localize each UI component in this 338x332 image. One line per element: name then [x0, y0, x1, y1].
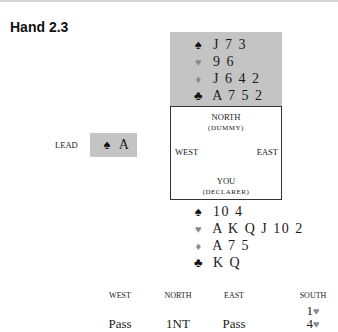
- declarer-spades: ♠ 10 4: [190, 204, 244, 221]
- diamond-icon: ♦: [190, 73, 208, 85]
- lead-card: ♠ A: [90, 133, 137, 157]
- dummy-diamonds: ♦ J 6 4 2: [190, 71, 260, 88]
- auction-header-west: WEST: [95, 291, 145, 300]
- dummy-clubs: ♣ A 7 5 2: [190, 88, 264, 105]
- dummy-diamonds-cards: J 6 4 2: [213, 71, 260, 86]
- dummy-hand: ♠ J 7 3 ♥ 9 6 ♦ J 6 4 2 ♣ A 7 5 2: [170, 32, 282, 106]
- heart-icon: ♥: [190, 223, 208, 235]
- bid-west-2: Pass: [95, 316, 145, 332]
- declarer-diamonds-cards: A 7 5: [212, 238, 250, 253]
- north-sub-label: (DUMMY): [171, 124, 281, 132]
- dummy-spades: ♠ J 7 3: [190, 37, 247, 54]
- north-label: NORTH: [171, 112, 281, 122]
- table-diagram: NORTH (DUMMY) WEST EAST YOU (DECLARER): [170, 106, 282, 200]
- dummy-hearts-cards: 9 6: [213, 54, 235, 69]
- club-icon: ♣: [190, 88, 208, 104]
- west-label: WEST: [175, 147, 198, 157]
- bid-east-2: Pass: [209, 316, 259, 332]
- declarer-clubs: ♣ K Q: [190, 255, 241, 272]
- heart-icon: ♥: [313, 318, 320, 330]
- south-label: YOU: [171, 176, 281, 186]
- lead-label: LEAD: [55, 140, 78, 150]
- declarer-hearts-cards: A K Q J 10 2: [212, 221, 304, 236]
- spade-icon: ♠: [98, 133, 116, 157]
- hand-title: Hand 2.3: [10, 19, 68, 35]
- spade-icon: ♠: [190, 37, 208, 53]
- top-rule: [0, 0, 338, 2]
- dummy-spades-cards: J 7 3: [213, 37, 247, 52]
- south-sub-label: (DECLARER): [171, 188, 281, 196]
- spade-icon: ♠: [190, 204, 208, 220]
- lead-card-rank: A: [119, 137, 129, 152]
- heart-icon: ♥: [190, 56, 208, 68]
- declarer-clubs-cards: K Q: [213, 255, 241, 270]
- auction-header-south: SOUTH: [288, 291, 338, 300]
- bid-south-2: 4♥: [288, 316, 338, 332]
- club-icon: ♣: [190, 255, 208, 271]
- east-label: EAST: [257, 147, 278, 157]
- dummy-hearts: ♥ 9 6: [190, 54, 235, 71]
- diamond-icon: ♦: [190, 240, 208, 252]
- declarer-spades-cards: 10 4: [213, 204, 244, 219]
- auction-header-north: NORTH: [153, 291, 203, 300]
- declarer-hearts: ♥ A K Q J 10 2: [190, 221, 304, 238]
- declarer-diamonds: ♦ A 7 5: [190, 238, 250, 255]
- auction-header-east: EAST: [209, 291, 259, 300]
- dummy-clubs-cards: A 7 5 2: [212, 88, 263, 103]
- bid-north-2: 1NT: [153, 316, 203, 332]
